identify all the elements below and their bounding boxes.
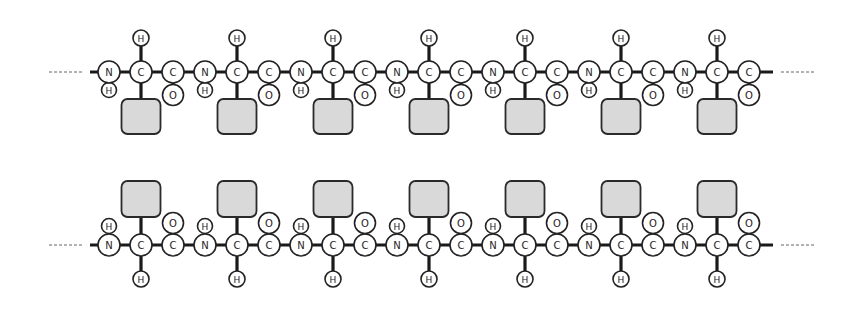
oxygen-atom: O (163, 85, 184, 106)
nitrogen-atom: N (386, 61, 408, 83)
amide-hydrogen-atom: H (678, 83, 693, 98)
nitrogen-atom: N (194, 234, 216, 256)
amide-hydrogen-atom: H (486, 83, 501, 98)
amide-hydrogen-atom: H (390, 219, 405, 234)
alpha-carbon-atom-label: C (618, 67, 625, 78)
carbonyl-carbon-atom: C (642, 61, 664, 83)
amide-hydrogen-atom-label: H (298, 222, 305, 232)
nitrogen-atom: N (578, 234, 600, 256)
carbonyl-carbon-atom-label: C (362, 67, 369, 78)
alpha-hydrogen-atom: H (709, 271, 725, 287)
amide-hydrogen-atom-label: H (586, 86, 593, 96)
amide-hydrogen-atom: H (198, 83, 213, 98)
carbonyl-carbon-atom: C (642, 234, 664, 256)
residue: HHONCC (674, 181, 760, 287)
alpha-hydrogen-atom: H (421, 271, 437, 287)
residue: HHONCC (578, 30, 664, 134)
carbonyl-carbon-atom: C (546, 61, 568, 83)
alpha-hydrogen-atom: H (325, 271, 341, 287)
alpha-hydrogen-atom: H (133, 271, 149, 287)
alpha-carbon-atom: C (610, 61, 632, 83)
alpha-carbon-atom: C (418, 234, 440, 256)
oxygen-atom: O (355, 85, 376, 106)
alpha-carbon-atom: C (130, 61, 152, 83)
oxygen-atom: O (547, 85, 568, 106)
residue: HHONCC (290, 181, 376, 287)
oxygen-atom: O (739, 85, 760, 106)
alpha-carbon-atom: C (226, 234, 248, 256)
side-chain-r-group (218, 99, 257, 134)
alpha-hydrogen-atom: H (613, 30, 629, 46)
nitrogen-atom-label: N (201, 67, 208, 78)
nitrogen-atom-label: N (297, 240, 304, 251)
oxygen-atom: O (643, 213, 664, 234)
nitrogen-atom-label: N (585, 240, 592, 251)
side-chain-r-group (314, 181, 353, 217)
alpha-carbon-atom: C (610, 234, 632, 256)
residue: HHONCC (482, 30, 568, 134)
amide-hydrogen-atom-label: H (586, 222, 593, 232)
nitrogen-atom-label: N (201, 240, 208, 251)
carbonyl-carbon-atom-label: C (458, 67, 465, 78)
residue: HHONCC (290, 30, 376, 134)
residue: HHONCC (482, 181, 568, 287)
side-chain-r-group (122, 99, 161, 134)
alpha-carbon-atom-label: C (426, 240, 433, 251)
alpha-hydrogen-atom-label: H (330, 34, 337, 44)
oxygen-atom-label: O (457, 90, 465, 101)
nitrogen-atom: N (482, 234, 504, 256)
carbonyl-carbon-atom: C (162, 61, 184, 83)
alpha-hydrogen-atom: H (421, 30, 437, 46)
alpha-hydrogen-atom: H (133, 30, 149, 46)
oxygen-atom-label: O (265, 90, 273, 101)
nitrogen-atom: N (578, 61, 600, 83)
carbonyl-carbon-atom-label: C (458, 240, 465, 251)
carbonyl-carbon-atom-label: C (650, 240, 657, 251)
nitrogen-atom-label: N (585, 67, 592, 78)
side-chain-r-group (410, 99, 449, 134)
carbonyl-carbon-atom: C (738, 61, 760, 83)
carbonyl-carbon-atom: C (738, 234, 760, 256)
alpha-hydrogen-atom: H (325, 30, 341, 46)
alpha-carbon-atom-label: C (138, 67, 145, 78)
carbonyl-carbon-atom-label: C (554, 67, 561, 78)
nitrogen-atom-label: N (393, 67, 400, 78)
alpha-hydrogen-atom-label: H (138, 34, 145, 44)
carbonyl-carbon-atom: C (450, 234, 472, 256)
residue: HHONCC (386, 30, 472, 134)
alpha-carbon-atom: C (322, 234, 344, 256)
oxygen-atom-label: O (649, 90, 657, 101)
side-chain-r-group (218, 181, 257, 217)
bottom-chain: HHONCCHHONCCHHONCCHHONCCHHONCCHHONCCHHON… (49, 181, 816, 287)
carbonyl-carbon-atom: C (546, 234, 568, 256)
chains-layer: HHONCCHHONCCHHONCCHHONCCHHONCCHHONCCHHON… (49, 30, 816, 287)
amide-hydrogen-atom: H (390, 83, 405, 98)
amide-hydrogen-atom: H (678, 219, 693, 234)
amide-hydrogen-atom: H (582, 83, 597, 98)
amide-hydrogen-atom-label: H (490, 222, 497, 232)
amide-hydrogen-atom-label: H (298, 86, 305, 96)
residue: HHONCC (674, 30, 760, 134)
amide-hydrogen-atom: H (294, 83, 309, 98)
alpha-hydrogen-atom-label: H (618, 275, 625, 285)
side-chain-r-group (122, 181, 161, 217)
carbonyl-carbon-atom: C (450, 61, 472, 83)
amide-hydrogen-atom: H (102, 83, 117, 98)
nitrogen-atom: N (290, 234, 312, 256)
nitrogen-atom-label: N (393, 240, 400, 251)
carbonyl-carbon-atom-label: C (266, 240, 273, 251)
nitrogen-atom: N (482, 61, 504, 83)
oxygen-atom: O (643, 85, 664, 106)
oxygen-atom-label: O (457, 218, 465, 229)
carbonyl-carbon-atom-label: C (746, 240, 753, 251)
nitrogen-atom-label: N (681, 240, 688, 251)
oxygen-atom: O (355, 213, 376, 234)
nitrogen-atom: N (674, 61, 696, 83)
side-chain-r-group (698, 181, 737, 217)
oxygen-atom-label: O (169, 218, 177, 229)
nitrogen-atom-label: N (681, 67, 688, 78)
alpha-carbon-atom-label: C (618, 240, 625, 251)
amide-hydrogen-atom-label: H (394, 222, 401, 232)
carbonyl-carbon-atom-label: C (170, 240, 177, 251)
oxygen-atom-label: O (553, 90, 561, 101)
